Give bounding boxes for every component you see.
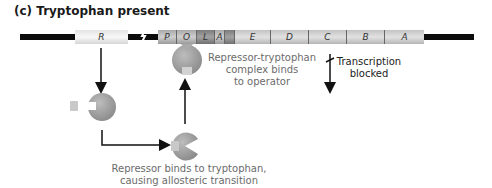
tryptophan-icon [70, 101, 78, 111]
label-line: complex binds [202, 64, 322, 76]
label-line: Repressor-tryptophan [202, 52, 322, 64]
label-allosteric: Repressor binds to tryptophan, causing a… [104, 163, 274, 187]
diagram-shapes [0, 0, 492, 188]
label-line: blocked [334, 68, 404, 80]
dna-break-icon [141, 28, 146, 44]
repressor-inactive-icon [88, 93, 116, 121]
label-line: Repressor binds to tryptophan, [104, 163, 274, 175]
label-complex-binds: Repressor-tryptophan complex binds to op… [202, 52, 322, 88]
repressor-bound-icon [172, 44, 202, 75]
repressor-active-icon [171, 133, 198, 161]
label-line: causing allosteric transition [104, 175, 274, 187]
label-line: to operator [202, 76, 322, 88]
label-line: Transcription [334, 56, 404, 68]
label-transcription-blocked: Transcription blocked [334, 56, 404, 80]
